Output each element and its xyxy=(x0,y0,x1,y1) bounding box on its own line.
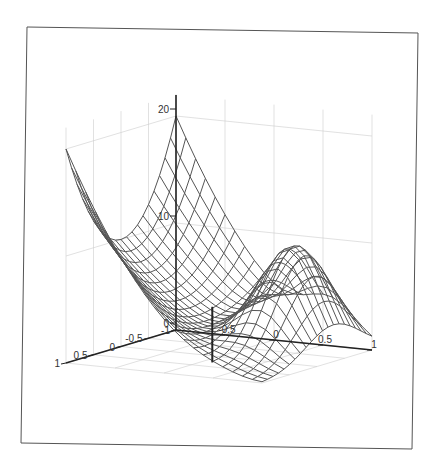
z-tick-label: 10 xyxy=(158,211,170,222)
x-tick-label: -0.5 xyxy=(125,333,143,344)
x-tick-label: 0.5 xyxy=(74,350,88,361)
x-tick-label: 0 xyxy=(109,342,115,353)
y-tick-label: -0.5 xyxy=(218,324,236,335)
surface-plot: -1-0.500.51-0.500.5101020 xyxy=(0,0,440,475)
z-tick-label: 0 xyxy=(163,318,169,329)
z-tick-label: 20 xyxy=(158,104,170,115)
figure-frame xyxy=(21,27,418,449)
x-tick-label: 1 xyxy=(54,358,60,369)
y-tick-label: 1 xyxy=(371,339,377,350)
y-tick-label: 0.5 xyxy=(318,334,332,345)
y-tick-label: 0 xyxy=(273,329,279,340)
